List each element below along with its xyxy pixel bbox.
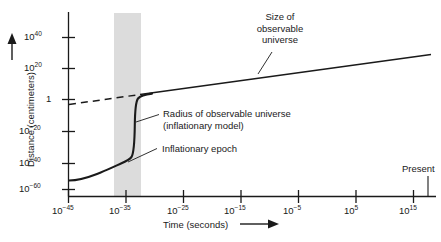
- size-of-universe-line: [140, 55, 431, 95]
- x-tick-label-1e5: 105: [344, 205, 358, 217]
- y-axis-title-text: Distance (centimeters): [25, 72, 36, 167]
- radius-of-universe-label: Radius of observable universe (inflation…: [163, 108, 291, 131]
- y-tick-label-1e-60: 10−60: [19, 183, 41, 195]
- size-of-universe-label: Size of observable universe: [237, 11, 323, 46]
- radius-label-line2: (inflationary model): [163, 120, 244, 131]
- inflation-cosmology-chart: 1040 1020 1 10−20 10−40 10−60 10−45 10−3…: [0, 0, 441, 242]
- x-tick-label-1e-25: 10−25: [167, 205, 189, 217]
- size-label-leader-line: [258, 52, 272, 74]
- x-tick-label-1e-35: 10−35: [109, 205, 131, 217]
- size-label-line1: Size of: [265, 11, 294, 22]
- epoch-label-text: Inflationary epoch: [162, 143, 237, 154]
- y-axis-title: Distance (centimeters): [21, 7, 39, 167]
- x-axis-title-text: Time (seconds): [163, 219, 228, 230]
- x-tick-label-1e-5: 10−5: [283, 205, 301, 217]
- y-axis-arrow: [8, 33, 17, 60]
- size-label-line3: universe: [262, 34, 298, 45]
- size-label-line2: observable: [257, 23, 303, 34]
- x-tick-label-1e-45: 10−45: [52, 205, 74, 217]
- present-label-text: Present: [402, 163, 435, 174]
- present-label: Present: [402, 163, 435, 175]
- y-tick-label-1: 1: [46, 93, 51, 105]
- x-tick-label-1e-15: 10−15: [224, 205, 246, 217]
- x-axis-arrow: [240, 220, 279, 229]
- x-tick-label-1e15: 1015: [399, 205, 417, 217]
- radius-label-line1: Radius of observable universe: [163, 108, 291, 119]
- inflationary-epoch-label: Inflationary epoch: [162, 143, 237, 155]
- x-axis-title: Time (seconds): [163, 219, 228, 231]
